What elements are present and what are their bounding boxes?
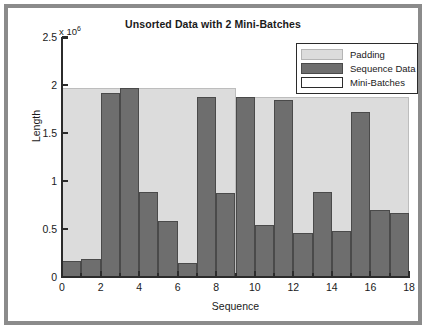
legend-item-padding: Padding: [301, 48, 413, 61]
figure-inner: Unsorted Data with 2 Mini-Batches x 106 …: [8, 8, 418, 321]
y-tick-label-3: 1.5: [42, 127, 57, 139]
x-tick-6: [292, 271, 294, 277]
x-minor-tick-17: [389, 273, 391, 277]
x-minor-tick-15: [350, 273, 352, 277]
bar-sequence-16: [351, 112, 370, 277]
x-tick-label-8: 16: [365, 281, 377, 293]
y-tick-5: [62, 36, 68, 38]
x-tick-5: [254, 271, 256, 277]
x-tick-3: [177, 271, 179, 277]
x-minor-tick-11: [273, 273, 275, 277]
bar-sequence-3: [101, 93, 120, 277]
y-tick-label-5: 2.5: [42, 31, 57, 43]
x-tick-label-9: 18: [403, 281, 415, 293]
bar-sequence-13: [293, 233, 312, 277]
bar-sequence-5: [139, 192, 158, 277]
x-tick-8: [369, 271, 371, 277]
bar-sequence-14: [313, 192, 332, 277]
chart-legend: Padding Sequence Data Mini-Batches: [296, 43, 418, 94]
x-tick-label-2: 4: [136, 281, 142, 293]
legend-item-sequence-data: Sequence Data: [301, 62, 413, 75]
bar-sequence-18: [390, 213, 409, 277]
legend-label-padding: Padding: [350, 49, 385, 60]
x-tick-label-7: 14: [326, 281, 338, 293]
y-axis-exponent-power: 6: [77, 25, 81, 32]
y-tick-3: [62, 132, 68, 134]
bar-sequence-2: [81, 259, 100, 277]
bar-sequence-6: [158, 221, 177, 277]
x-tick-label-1: 2: [98, 281, 104, 293]
bar-sequence-7: [178, 263, 197, 277]
bar-sequence-15: [332, 231, 351, 277]
x-minor-tick-5: [157, 273, 159, 277]
y-axis-label: Length: [30, 86, 42, 166]
x-minor-tick-1: [80, 273, 82, 277]
x-tick-2: [138, 271, 140, 277]
y-axis-line: [61, 37, 63, 277]
x-tick-9: [408, 271, 410, 277]
legend-item-mini-batches: Mini-Batches: [301, 76, 413, 89]
x-tick-7: [331, 271, 333, 277]
legend-label-mini-batches: Mini-Batches: [350, 77, 405, 88]
y-tick-2: [62, 180, 68, 182]
x-tick-label-6: 12: [287, 281, 299, 293]
x-axis-label: Sequence: [62, 300, 409, 312]
y-tick-4: [62, 84, 68, 86]
y-tick-label-1: 0.5: [42, 223, 57, 235]
bar-sequence-4: [120, 88, 139, 277]
legend-label-sequence-data: Sequence Data: [350, 63, 416, 74]
x-minor-tick-13: [312, 273, 314, 277]
x-minor-tick-7: [196, 273, 198, 277]
bar-sequence-9: [216, 193, 235, 277]
bar-sequence-17: [370, 210, 389, 277]
x-minor-tick-3: [119, 273, 121, 277]
y-tick-1: [62, 228, 68, 230]
legend-swatch-mini-batches-icon: [301, 77, 343, 88]
x-tick-label-0: 0: [59, 281, 65, 293]
figure-container: Unsorted Data with 2 Mini-Batches x 106 …: [0, 0, 426, 329]
bar-sequence-8: [197, 97, 216, 277]
bar-sequence-12: [274, 100, 293, 277]
bar-sequence-11: [255, 225, 274, 277]
x-tick-0: [61, 271, 63, 277]
x-tick-label-3: 6: [175, 281, 181, 293]
legend-swatch-sequence-data-icon: [301, 63, 343, 74]
y-tick-label-4: 2: [51, 79, 57, 91]
bar-sequence-10: [236, 97, 255, 277]
x-minor-tick-9: [235, 273, 237, 277]
y-tick-label-0: 0: [51, 271, 57, 283]
figure-frame: Unsorted Data with 2 Mini-Batches x 106 …: [4, 4, 422, 325]
x-tick-4: [215, 271, 217, 277]
x-tick-label-4: 8: [213, 281, 219, 293]
x-tick-1: [100, 271, 102, 277]
y-tick-label-2: 1: [51, 175, 57, 187]
bar-sequence-1: [62, 261, 81, 277]
x-tick-label-5: 10: [249, 281, 261, 293]
legend-swatch-padding-icon: [301, 49, 343, 60]
